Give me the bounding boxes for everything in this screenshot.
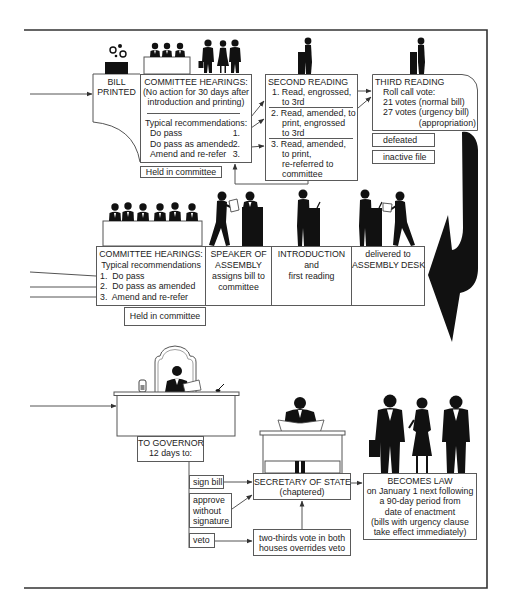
recommendation-1-number: 1. [233, 128, 240, 138]
arrow-cmt-to-second-1 [251, 101, 264, 117]
recommendation-2-number: 2. [233, 139, 240, 149]
veto-box: veto [189, 533, 215, 548]
divider [147, 113, 240, 114]
assembly-desk-box: delivered to ASSEMBLY DESK [351, 246, 425, 306]
inactive-file-label: inactive file [373, 151, 434, 163]
approve-line-2: without [193, 506, 221, 516]
assembly-desk-icon [359, 190, 415, 247]
sos-subtitle: (chaptered) [254, 487, 350, 497]
printer-icon [105, 44, 128, 74]
approve-without-signature-box: approve without signature [189, 493, 232, 528]
governor-title: TO GOVERNOR [138, 438, 203, 448]
second-option-3-line-1: 3. Read, amended, [271, 139, 346, 149]
secretary-of-state-icon [260, 397, 345, 473]
becomes-law-title: BECOMES LAW [364, 476, 476, 486]
third-reading-line-3: 27 votes (urgency bill) [383, 107, 469, 117]
committee-hearings-title: COMMITTEE HEARINGS: [141, 77, 251, 87]
committee-hearings-subtitle: Typical recommendations [97, 260, 205, 270]
messenger-icon [209, 192, 239, 247]
approve-line-3: signature [193, 516, 229, 526]
becomes-law-line-5: take effect immediately) [364, 527, 476, 537]
second-option-3-line-2: to print, [282, 149, 311, 159]
curved-flow-arrow-icon [428, 132, 478, 342]
arrow-cmt-to-second-2 [251, 119, 264, 128]
override-line-1: two-thirds vote in both [254, 533, 350, 543]
second-option-1-line-2: to 3rd [282, 97, 305, 107]
becomes-law-line-3: date of enactment [364, 507, 476, 517]
recommendation-3-label: Amend and re-refer [150, 149, 226, 159]
governor-subtitle: 12 days to: [138, 448, 203, 458]
sos-title: SECRETARY OF STATE [254, 477, 350, 487]
arrow-approve-to-sos [232, 495, 252, 509]
to-governor-box: TO GOVERNOR 12 days to: [137, 436, 204, 462]
bill-printed-label: BILL PRINTED [93, 77, 140, 99]
second-option-2-line-3: to 3rd [282, 128, 305, 138]
committee-hearings-top-box: COMMITTEE HEARINGS: (No action for 30 da… [140, 74, 252, 163]
introduction-box: INTRODUCTION and first reading [271, 246, 352, 306]
defeated-label: defeated [373, 134, 434, 146]
third-reading-line-1: Roll call vote: [383, 87, 435, 97]
inactive-file-box: inactive file [372, 150, 435, 164]
held-in-committee-label: Held in committee [125, 308, 205, 325]
second-option-2-line-1: 2. Read, amended, to [271, 108, 356, 118]
secretary-of-state-box: SECRETARY OF STATE (chaptered) [253, 473, 351, 500]
speaker-of-assembly-icon [242, 192, 263, 247]
second-option-3-line-4: committee [282, 169, 323, 179]
introduction-line-3: first reading [272, 271, 351, 281]
becomes-law-line-4: (bills with urgency clause [364, 517, 476, 527]
recommendations-label: Typical recommendations: [141, 118, 251, 128]
bill-printed-line1: BILL [93, 77, 140, 87]
speaker-line-1: SPEAKER OF [206, 249, 271, 259]
recommendation-3: 3. Amend and re-refer [100, 292, 188, 302]
delivered-line-2: ASSEMBLY DESK [352, 260, 424, 270]
recommendation-1: 1. Do pass [100, 271, 145, 281]
override-line-2: houses overrides veto [254, 543, 350, 553]
third-reading-box: THIRD READING Roll call vote: 21 votes (… [372, 74, 478, 131]
veto-override-box: two-thirds vote in both houses overrides… [253, 529, 351, 556]
recommendation-2: 2. Do pass as amended [100, 281, 195, 291]
committee-panel-icon-top [144, 43, 190, 74]
approve-line-1: approve [193, 495, 225, 505]
speaker-line-4: committee [206, 282, 271, 292]
committee-hearings-middle-box: COMMITTEE HEARINGS: Typical recommendati… [96, 246, 206, 306]
arrow-cmt-to-second-3 [251, 146, 264, 147]
governor-desk-icon [114, 346, 239, 436]
committee-panel-icon-middle [103, 202, 202, 246]
bill-printed-line2: PRINTED [93, 87, 140, 97]
third-reading-line-4: (appropriation) [419, 118, 476, 128]
arrow-second-to-third-2 [358, 97, 371, 108]
recommendation-2-label: Do pass as amended [150, 139, 233, 149]
becomes-law-line-2: a 90-day period from [364, 496, 476, 506]
recommendation-1-label: Do pass [150, 128, 182, 138]
second-reading-title: SECOND READING [268, 77, 348, 87]
veto-label: veto [190, 534, 214, 547]
sign-bill-box: sign bill [189, 475, 224, 489]
podium-speaker-icon-second [298, 38, 312, 74]
sign-bill-label: sign bill [190, 476, 223, 488]
introduction-line-2: and [272, 260, 351, 270]
witnesses-icon [199, 39, 242, 73]
becomes-law-line-1: on January 1 next following [364, 486, 476, 496]
second-reading-box: SECOND READING 1. Read, engrossed, to 3r… [265, 74, 358, 181]
speaker-line-3: assigns bill to [206, 271, 271, 281]
held-in-committee-label: Held in committee [141, 167, 221, 177]
introduction-line-1: INTRODUCTION [272, 249, 351, 259]
held-in-committee-middle: Held in committee [124, 307, 206, 326]
second-option-3-line-3: re-referred to [282, 159, 333, 169]
defeated-box: defeated [372, 133, 435, 147]
second-option-1-line-1: 1. Read, engrossed, [272, 87, 351, 97]
speaker-of-assembly-box: SPEAKER OF ASSEMBLY assigns bill to comm… [205, 246, 272, 306]
podium-speaker-icon-third [410, 38, 425, 74]
committee-hearings-note-2: introduction and printing) [141, 97, 251, 107]
committee-hearings-title: COMMITTEE HEARINGS: [97, 249, 205, 259]
second-option-2-line-2: print, engrossed [282, 118, 345, 128]
becomes-law-box: BECOMES LAW on January 1 next following … [363, 473, 477, 540]
speaker-line-2: ASSEMBLY [206, 260, 271, 270]
line-from-senate-1 [30, 272, 96, 276]
citizens-icon [369, 395, 470, 474]
third-reading-line-2: 21 votes (normal bill) [383, 97, 465, 107]
recommendation-3-number: 3. [233, 149, 240, 159]
held-in-committee-top: Held in committee [140, 166, 222, 178]
third-reading-title: THIRD READING [375, 77, 444, 87]
committee-hearings-note-1: (No action for 30 days after [141, 87, 251, 97]
